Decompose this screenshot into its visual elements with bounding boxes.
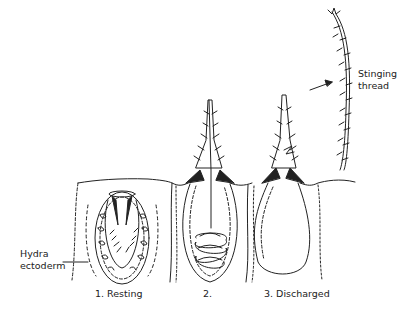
label-line: Stinging <box>358 68 397 80</box>
label-line: ectoderm <box>20 260 65 272</box>
label-stage-3: 3. Discharged <box>264 288 330 300</box>
label-line: Hydra <box>20 248 65 260</box>
label-stinging-thread: Stinging thread <box>358 68 397 92</box>
stinging-thread <box>328 8 352 170</box>
label-line: thread <box>358 80 397 92</box>
discharged-capsule <box>254 95 309 274</box>
label-hydra-ectoderm: Hydra ectoderm <box>20 248 65 272</box>
resting-capsule <box>86 191 158 284</box>
everting-capsule <box>183 100 238 282</box>
label-stage-2: 2. <box>203 288 212 300</box>
label-stage-1: 1. Resting <box>95 288 142 300</box>
